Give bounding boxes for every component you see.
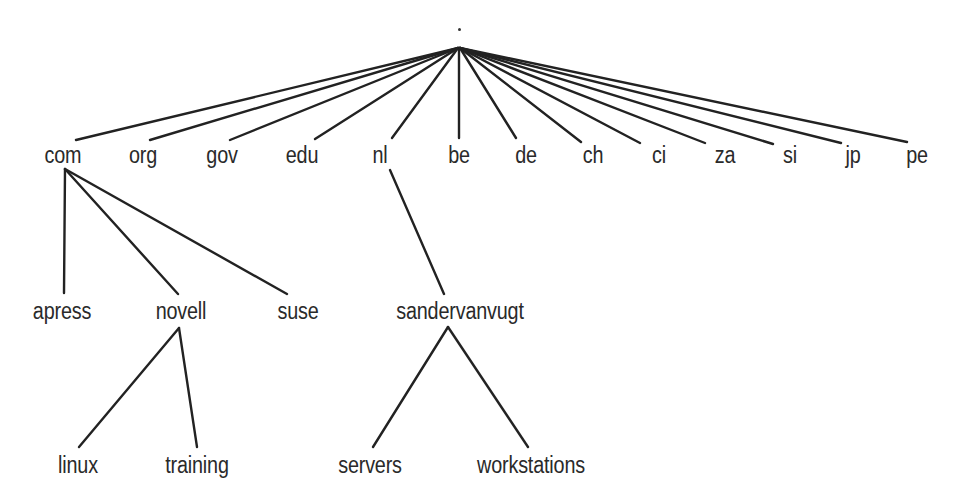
node-org: org <box>129 144 157 167</box>
node-apress: apress <box>33 300 91 323</box>
node-linux: linux <box>58 454 98 477</box>
node-gov: gov <box>206 144 237 167</box>
node-de: de <box>515 144 537 167</box>
node-sandervanvugt: sandervanvugt <box>396 300 524 323</box>
edge-novell-linux <box>79 328 179 447</box>
edge-com-suse <box>65 169 287 294</box>
node-suse: suse <box>277 300 318 323</box>
node-workstations: workstations <box>477 454 585 477</box>
edge-root-edu <box>315 48 458 139</box>
edge-root-za <box>460 48 705 143</box>
edge-novell-training <box>179 328 197 447</box>
node-jp: jp <box>845 144 860 167</box>
edge-root-jp <box>460 48 841 143</box>
node-edu: edu <box>286 144 318 167</box>
edge-com-apress <box>64 169 65 293</box>
dns-tree-diagram: comorggovedunlbedechcizasijppeapressnove… <box>0 0 965 501</box>
edge-com-novell <box>65 169 178 294</box>
edge-root-pe <box>460 48 907 142</box>
edge-nl-sandervanvugt <box>390 170 444 294</box>
node-be: be <box>448 144 470 167</box>
edge-root-org <box>150 48 458 140</box>
edge-sandervanvugt-servers <box>373 327 448 447</box>
node-ci: ci <box>652 144 666 167</box>
node-com: com <box>45 144 82 167</box>
node-za: za <box>715 144 736 167</box>
root-node-dot <box>458 28 461 31</box>
tree-edges <box>0 0 965 501</box>
node-training: training <box>165 454 229 477</box>
node-pe: pe <box>906 144 928 167</box>
node-si: si <box>783 144 797 167</box>
node-servers: servers <box>338 454 402 477</box>
node-nl: nl <box>372 144 387 167</box>
node-ch: ch <box>583 144 604 167</box>
edge-sandervanvugt-workstations <box>448 327 528 447</box>
node-novell: novell <box>156 300 207 323</box>
